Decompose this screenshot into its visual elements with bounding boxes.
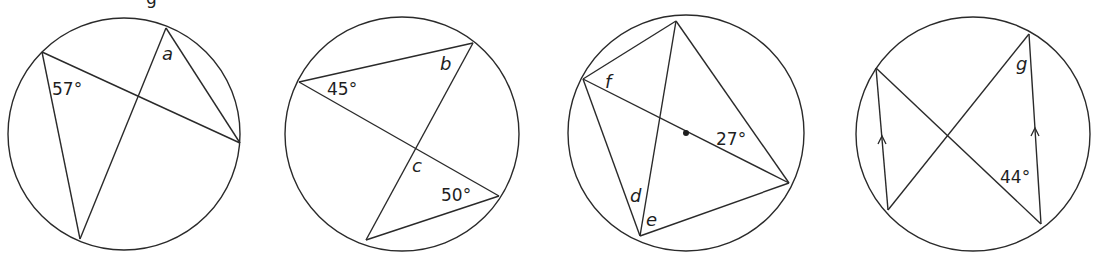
chord-AD (676, 21, 789, 183)
circle-outline (285, 17, 519, 251)
unknown-angle-label: e (646, 209, 657, 230)
angle-label: 57° (52, 79, 82, 99)
center-dot-icon (683, 130, 689, 136)
chord-AC (640, 21, 676, 236)
unknown-angle-label: g (1016, 53, 1027, 74)
chord-AD (876, 68, 1041, 224)
angle-label: 44° (1000, 167, 1030, 187)
header-fragment-text: g (146, 0, 157, 8)
chord-AC (876, 68, 888, 210)
chord-BD (80, 28, 166, 239)
angle-label: 45° (327, 79, 357, 99)
unknown-angle-label: c (412, 155, 422, 176)
circle-2-diagram: 45°bc50° (285, 17, 519, 251)
circle-4-diagram: g44° (856, 17, 1090, 251)
chord-BC (583, 79, 640, 236)
circle-1-diagram: 57°a (8, 18, 240, 250)
unknown-angle-label: b (440, 53, 451, 74)
unknown-angle-label: f (605, 71, 614, 92)
circle-outline (856, 17, 1090, 251)
unknown-angle-label: a (162, 43, 173, 64)
circle-3-diagram: f27°de (568, 15, 804, 251)
circle-theorem-diagrams: g 57°a45°bc50°f27°deg44° (0, 0, 1101, 260)
chord-CD (640, 183, 789, 236)
angle-label: 27° (716, 129, 746, 149)
angle-label: 50° (441, 185, 471, 205)
unknown-angle-label: d (630, 185, 642, 206)
